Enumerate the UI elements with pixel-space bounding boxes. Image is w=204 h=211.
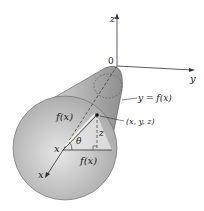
z-axis-label: z xyxy=(110,14,115,24)
diagram-graphics xyxy=(0,0,204,211)
y-axis-label: y xyxy=(190,74,196,84)
curve-label: y = f(x) xyxy=(138,94,172,103)
angle-label: θ xyxy=(76,137,81,146)
solid-of-revolution-diagram: z y x 0 y = f(x) (x, y, z) f(x) f(x) θ z… xyxy=(0,0,204,211)
slant-radius-label: f(x) xyxy=(56,112,73,122)
horizontal-radius-label: f(x) xyxy=(80,156,97,166)
y-axis xyxy=(117,66,192,70)
x-position-label: x xyxy=(54,144,60,154)
point-xyz xyxy=(95,113,99,117)
height-label: z xyxy=(99,129,104,138)
origin-label: 0 xyxy=(108,57,114,66)
point-label: (x, y, z) xyxy=(126,118,155,126)
x-axis-label: x xyxy=(38,170,44,180)
